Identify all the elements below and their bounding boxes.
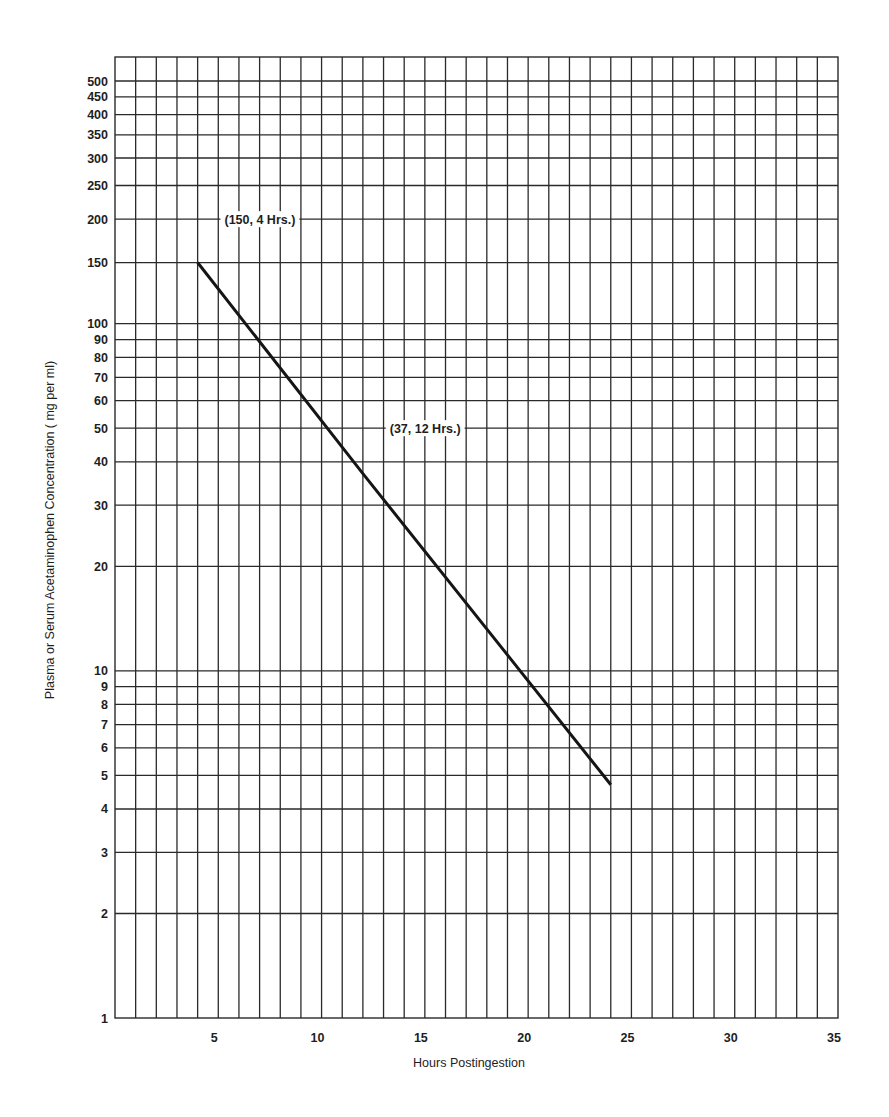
x-tick-label: 30 — [724, 1031, 738, 1045]
y-tick-label: 450 — [87, 90, 108, 104]
y-tick-label: 9 — [101, 680, 108, 694]
x-tick-label: 15 — [414, 1031, 428, 1045]
y-tick-label: 8 — [101, 698, 108, 712]
y-tick-label: 70 — [94, 371, 108, 385]
point-annotation: (37, 12 Hrs.) — [386, 420, 465, 436]
y-tick-label: 400 — [87, 108, 108, 122]
y-tick-label: 1 — [101, 1012, 108, 1026]
y-tick-label: 3 — [101, 846, 108, 860]
y-tick-label: 7 — [101, 718, 108, 732]
vertical-gridlines — [136, 57, 818, 1018]
x-tick-label: 35 — [827, 1031, 841, 1045]
y-tick-label: 90 — [94, 333, 108, 347]
x-tick-label: 5 — [211, 1031, 218, 1045]
y-tick-label: 30 — [94, 499, 108, 513]
y-axis-tick-labels: 1234567891020304050607080901001502002503… — [87, 75, 108, 1026]
y-tick-label: 250 — [87, 179, 108, 193]
y-tick-label: 350 — [87, 128, 108, 142]
y-tick-label: 4 — [101, 802, 108, 816]
y-tick-label: 100 — [87, 317, 108, 331]
x-tick-label: 10 — [311, 1031, 325, 1045]
y-tick-label: 60 — [94, 394, 108, 408]
y-tick-label: 5 — [101, 769, 108, 783]
x-axis-tick-labels: 5101520253035 — [211, 1031, 841, 1045]
x-tick-label: 20 — [517, 1031, 531, 1045]
y-tick-label: 6 — [101, 741, 108, 755]
y-axis-title: Plasma or Serum Acetaminophen Concentrat… — [43, 361, 57, 699]
y-tick-label: 2 — [101, 907, 108, 921]
x-axis-title: Hours Postingestion — [413, 1056, 525, 1070]
nomogram-chart: 1234567891020304050607080901001502002503… — [0, 0, 889, 1117]
y-tick-label: 50 — [94, 422, 108, 436]
annotation-label: (150, 4 Hrs.) — [224, 213, 295, 227]
y-tick-label: 500 — [87, 75, 108, 89]
annotation-label: (37, 12 Hrs.) — [390, 422, 461, 436]
y-tick-label: 20 — [94, 560, 108, 574]
x-tick-label: 25 — [620, 1031, 634, 1045]
y-tick-label: 40 — [94, 455, 108, 469]
y-tick-label: 80 — [94, 351, 108, 365]
plot-frame — [115, 57, 838, 1018]
y-tick-label: 10 — [94, 664, 108, 678]
y-tick-label: 150 — [87, 256, 108, 270]
y-tick-label: 300 — [87, 152, 108, 166]
y-tick-label: 200 — [87, 213, 108, 227]
horizontal-gridlines — [115, 81, 838, 913]
point-annotation: (150, 4 Hrs.) — [220, 211, 299, 227]
